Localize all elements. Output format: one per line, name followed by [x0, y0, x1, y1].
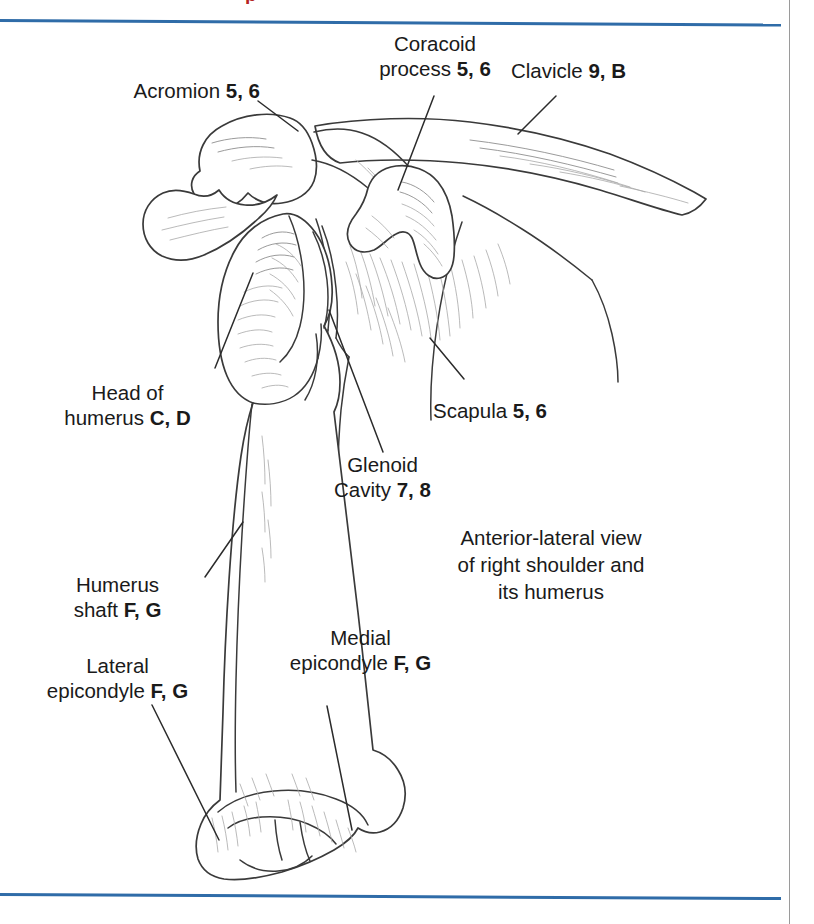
- label-scapula-text: Scapula: [433, 399, 513, 422]
- label-humerus-shaft: Humerus shaft F, G: [30, 572, 205, 622]
- label-glenoid-cavity-refs: 7, 8: [397, 478, 431, 501]
- figure-caption-line3: its humerus: [420, 578, 682, 605]
- label-head-of-humerus-line1: Head of: [92, 381, 164, 404]
- label-acromion: Acromion 5, 6: [20, 78, 260, 103]
- label-medial-epicondyle: Medial epicondyle F, G: [243, 625, 478, 675]
- label-acromion-refs: 5, 6: [226, 79, 260, 102]
- label-coracoid-process-line2: process: [379, 57, 456, 80]
- label-coracoid-process-refs: 5, 6: [457, 57, 491, 80]
- figure-caption-line1: Anterior-lateral view: [420, 524, 682, 551]
- label-lateral-epicondyle: Lateral epicondyle F, G: [10, 653, 225, 703]
- label-clavicle-refs: 9, B: [588, 59, 626, 82]
- label-coracoid-process-line1: Coracoid: [394, 32, 476, 55]
- label-acromion-text: Acromion: [134, 79, 226, 102]
- label-medial-epicondyle-line2: epicondyle: [290, 651, 394, 674]
- label-humerus-shaft-refs: F, G: [124, 598, 162, 621]
- figure-caption-line2: of right shoulder and: [420, 551, 682, 578]
- humerus-drawing: [196, 214, 405, 880]
- label-lateral-epicondyle-line2: epicondyle: [47, 679, 151, 702]
- label-clavicle: Clavicle 9, B: [511, 58, 626, 83]
- label-glenoid-cavity-line1: Glenoid: [347, 453, 418, 476]
- label-head-of-humerus-refs: C, D: [150, 406, 191, 429]
- label-humerus-shaft-line2: shaft: [74, 598, 124, 621]
- figure-page: p .bone { fill:#ffffff; stroke:#3a3a3a; …: [0, 0, 814, 924]
- figure-caption: Anterior-lateral view of right shoulder …: [420, 524, 682, 605]
- label-clavicle-text: Clavicle: [511, 59, 588, 82]
- label-glenoid-cavity: Glenoid Cavity 7, 8: [290, 452, 475, 502]
- label-coracoid-process: Coracoid process 5, 6: [335, 31, 535, 81]
- label-scapula: Scapula 5, 6: [433, 398, 547, 423]
- label-humerus-shaft-line1: Humerus: [76, 573, 159, 596]
- label-lateral-epicondyle-line1: Lateral: [86, 654, 149, 677]
- label-medial-epicondyle-line1: Medial: [330, 626, 390, 649]
- label-glenoid-cavity-line2: Cavity: [334, 478, 397, 501]
- label-head-of-humerus-line2: humerus: [64, 406, 149, 429]
- label-head-of-humerus: Head of humerus C, D: [40, 380, 215, 430]
- label-medial-epicondyle-refs: F, G: [394, 651, 432, 674]
- label-scapula-refs: 5, 6: [513, 399, 547, 422]
- label-lateral-epicondyle-refs: F, G: [151, 679, 189, 702]
